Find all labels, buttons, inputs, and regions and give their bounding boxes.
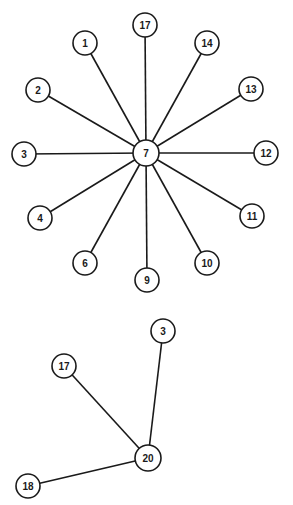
node-6: 6 <box>73 251 97 275</box>
node-label: 9 <box>144 275 150 286</box>
node-label: 20 <box>142 453 154 464</box>
edge-7-2 <box>38 90 146 153</box>
node-label: 3 <box>160 326 166 337</box>
node-label: 18 <box>22 481 34 492</box>
node-12: 12 <box>254 141 278 165</box>
node-20: 20 <box>135 445 161 471</box>
edge-7-6 <box>85 153 146 263</box>
star-graph-7: 7171142133124116109 <box>12 13 278 292</box>
edge-20-3 <box>148 331 163 458</box>
nodes-group: 2031718 <box>16 319 175 498</box>
edge-7-9 <box>146 153 147 280</box>
node-2: 2 <box>26 78 50 102</box>
node-label: 2 <box>35 85 41 96</box>
node-label: 4 <box>37 213 43 224</box>
node-11: 11 <box>240 204 264 228</box>
edge-7-13 <box>146 89 251 153</box>
node-label: 1 <box>82 38 88 49</box>
node-label: 6 <box>82 258 88 269</box>
node-18: 18 <box>16 474 40 498</box>
edge-7-14 <box>146 43 207 153</box>
node-10: 10 <box>195 251 219 275</box>
edge-7-4 <box>40 153 146 218</box>
node-17: 17 <box>52 354 76 378</box>
node-label: 17 <box>139 20 151 31</box>
node-4: 4 <box>28 206 52 230</box>
edge-7-3 <box>24 153 146 154</box>
node-label: 10 <box>201 258 213 269</box>
node-label: 7 <box>143 148 149 159</box>
edge-20-17 <box>64 366 148 458</box>
node-9: 9 <box>135 268 159 292</box>
node-label: 13 <box>245 84 257 95</box>
node-17: 17 <box>133 13 157 37</box>
node-14: 14 <box>195 31 219 55</box>
node-label: 3 <box>21 149 27 160</box>
diagram-canvas: 7171142133124116109 2031718 <box>0 0 293 505</box>
edge-7-11 <box>146 153 252 216</box>
node-7: 7 <box>133 140 159 166</box>
edge-7-10 <box>146 153 207 263</box>
star-graph-20: 2031718 <box>16 319 175 498</box>
node-3: 3 <box>151 319 175 343</box>
node-label: 11 <box>247 211 258 222</box>
edge-20-18 <box>28 458 148 486</box>
node-label: 14 <box>201 38 213 49</box>
node-1: 1 <box>73 31 97 55</box>
node-13: 13 <box>239 77 263 101</box>
node-label: 17 <box>58 361 70 372</box>
node-label: 12 <box>260 148 272 159</box>
edge-7-1 <box>85 43 146 153</box>
edge-7-17 <box>145 25 146 153</box>
node-3: 3 <box>12 142 36 166</box>
